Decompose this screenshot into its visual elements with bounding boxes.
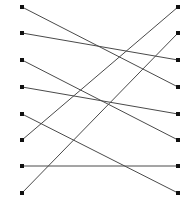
- edge-l6-r1: [22, 7, 178, 140]
- node-l4[interactable]: [20, 85, 24, 89]
- node-r2[interactable]: [176, 31, 180, 35]
- edges-layer: [22, 7, 178, 193]
- node-l2[interactable]: [20, 31, 24, 35]
- node-l1[interactable]: [20, 5, 24, 9]
- graph-svg: [0, 0, 194, 209]
- node-l8[interactable]: [20, 191, 24, 195]
- edge-l4-r5: [22, 87, 178, 114]
- node-r4[interactable]: [176, 85, 180, 89]
- node-r8[interactable]: [176, 191, 180, 195]
- bipartite-diagram-canvas: [0, 0, 194, 209]
- node-l6[interactable]: [20, 138, 24, 142]
- node-r7[interactable]: [176, 164, 180, 168]
- edge-l2-r3: [22, 33, 178, 60]
- node-r5[interactable]: [176, 112, 180, 116]
- node-r1[interactable]: [176, 5, 180, 9]
- node-l7[interactable]: [20, 164, 24, 168]
- edge-l8-r2: [22, 33, 178, 193]
- node-r6[interactable]: [176, 138, 180, 142]
- node-r3[interactable]: [176, 58, 180, 62]
- node-l3[interactable]: [20, 58, 24, 62]
- node-l5[interactable]: [20, 112, 24, 116]
- edge-l5-r8: [22, 114, 178, 193]
